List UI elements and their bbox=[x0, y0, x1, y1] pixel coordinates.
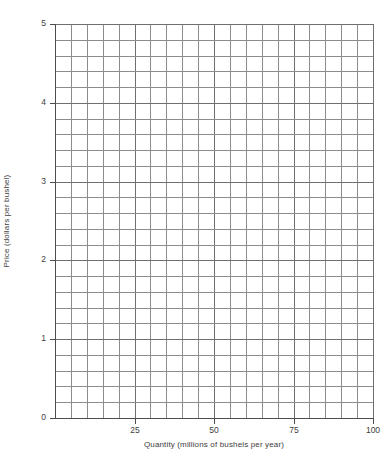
grid-line-vertical bbox=[246, 24, 247, 418]
grid-line-vertical bbox=[230, 24, 231, 418]
grid-line-horizontal bbox=[55, 40, 373, 41]
grid-line-horizontal bbox=[55, 308, 373, 309]
y-tick-mark bbox=[50, 182, 55, 183]
grid-line-horizontal bbox=[55, 276, 373, 277]
grid-line-horizontal bbox=[55, 355, 373, 356]
grid-line-vertical-major bbox=[135, 24, 136, 418]
x-tick-mark bbox=[294, 419, 295, 424]
grid-line-vertical bbox=[103, 24, 104, 418]
y-axis-line bbox=[55, 24, 56, 419]
x-axis-title-text: Quantity (millions of bushels per year) bbox=[55, 440, 373, 450]
grid-line-vertical bbox=[87, 24, 88, 418]
grid-line-vertical bbox=[166, 24, 167, 418]
y-axis-title: Price (dollars per bushel) bbox=[0, 24, 14, 418]
grid-line-horizontal bbox=[55, 87, 373, 88]
grid-line-vertical bbox=[198, 24, 199, 418]
grid-line-vertical bbox=[278, 24, 279, 418]
grid-line-horizontal bbox=[55, 292, 373, 293]
y-axis-title-text: Price (dollars per bushel) bbox=[2, 175, 12, 268]
grid-line-horizontal bbox=[55, 119, 373, 120]
y-tick-mark bbox=[50, 24, 55, 25]
grid-line-vertical-major bbox=[294, 24, 295, 418]
grid-line-horizontal bbox=[55, 166, 373, 167]
x-tick-mark bbox=[135, 419, 136, 424]
grid-line-vertical-major bbox=[214, 24, 215, 418]
grid-line-horizontal bbox=[55, 229, 373, 230]
grid-line-horizontal-major bbox=[55, 182, 373, 183]
x-tick-label: 75 bbox=[274, 425, 314, 435]
grid-line-horizontal bbox=[55, 71, 373, 72]
grid-line-horizontal-major bbox=[55, 260, 373, 261]
y-tick-mark bbox=[50, 339, 55, 340]
y-tick-mark bbox=[50, 103, 55, 104]
grid-line-horizontal-major bbox=[55, 24, 373, 25]
grid-line-horizontal bbox=[55, 245, 373, 246]
grid-line-horizontal bbox=[55, 402, 373, 403]
grid-line-horizontal-major bbox=[55, 339, 373, 340]
grid-line-vertical bbox=[341, 24, 342, 418]
x-tick-label-text: 50 bbox=[194, 425, 234, 435]
grid-line-horizontal bbox=[55, 371, 373, 372]
grid-lines bbox=[55, 24, 373, 418]
grid-line-horizontal bbox=[55, 197, 373, 198]
grid-line-vertical bbox=[182, 24, 183, 418]
x-tick-label-text: 25 bbox=[115, 425, 155, 435]
grid-line-horizontal bbox=[55, 56, 373, 57]
x-tick-label-text: 75 bbox=[274, 425, 314, 435]
x-tick-label: 25 bbox=[115, 425, 155, 435]
grid-line-vertical bbox=[262, 24, 263, 418]
grid-line-horizontal bbox=[55, 213, 373, 214]
y-tick-mark bbox=[50, 418, 55, 419]
grid-line-horizontal bbox=[55, 150, 373, 151]
grid-line-vertical-major bbox=[373, 24, 374, 418]
grid-line-horizontal bbox=[55, 134, 373, 135]
x-tick-label-text: 100 bbox=[353, 425, 386, 435]
grid-line-vertical bbox=[309, 24, 310, 418]
x-tick-label: 100 bbox=[353, 425, 386, 435]
chart-figure: 543210 255075100 Price (dollars per bush… bbox=[0, 0, 386, 457]
x-tick-label: 50 bbox=[194, 425, 234, 435]
grid-line-horizontal bbox=[55, 323, 373, 324]
plot-area bbox=[55, 24, 373, 418]
x-tick-mark bbox=[373, 419, 374, 424]
grid-line-vertical bbox=[150, 24, 151, 418]
grid-line-horizontal-major bbox=[55, 103, 373, 104]
grid-line-vertical bbox=[357, 24, 358, 418]
grid-line-horizontal bbox=[55, 386, 373, 387]
grid-line-vertical bbox=[325, 24, 326, 418]
grid-line-vertical bbox=[119, 24, 120, 418]
x-tick-mark bbox=[214, 419, 215, 424]
y-tick-mark bbox=[50, 260, 55, 261]
grid-line-vertical bbox=[71, 24, 72, 418]
